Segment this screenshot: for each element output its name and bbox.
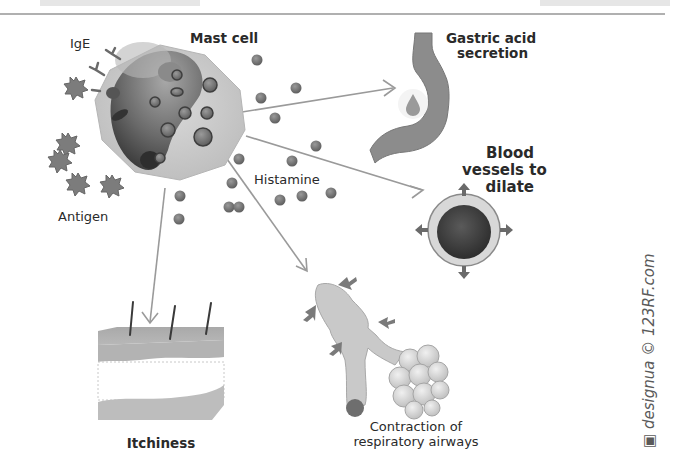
histamine-diagram: IgE Mast cell Antigen Histamine Gastric … [0,0,683,458]
ige-label: IgE [70,36,90,51]
skin-layer-icon [98,302,224,420]
diagram-graphics [0,0,683,458]
histamine-label: Histamine [254,172,320,187]
itchiness-label: Itchiness [126,436,196,451]
stomach-icon [370,33,449,163]
blood-vessels-label: Blood vessels to dilate [462,145,534,196]
mast-cell-label: Mast cell [190,31,258,46]
watermark-text: designua © 123RF.com [640,253,658,429]
gastric-acid-line-1: Gastric acid [446,31,528,46]
airways-line-1: Contraction of [346,419,486,434]
airways-label: Contraction of respiratory airways [346,419,486,449]
antigen-label: Antigen [58,209,108,224]
blood-vessels-line-1: Blood [462,145,534,162]
blood-vessel-icon [415,183,513,279]
bronchi-alveoli-icon [303,277,449,419]
watermark: ▣ designua © 123RF.com [640,253,658,448]
blood-vessels-line-3: dilate [462,179,534,196]
gastric-acid-line-2: secretion [446,46,528,61]
camera-icon: ▣ [640,434,658,448]
mast-cell-icon [95,42,245,180]
gastric-acid-label: Gastric acid secretion [446,31,528,61]
blood-vessels-line-2: vessels to [462,162,534,179]
airways-line-2: respiratory airways [346,434,486,449]
